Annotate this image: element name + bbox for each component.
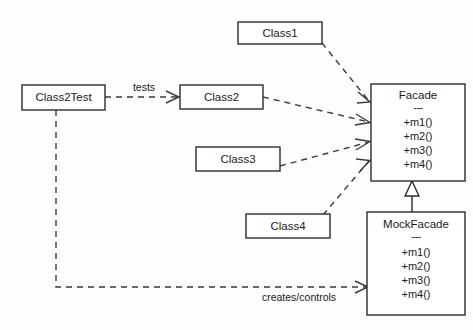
class-box-mockfacade[interactable]: MockFacade --- +m1() +m2() +m3() +m4() [367, 212, 465, 315]
class4-name: Class4 [270, 220, 306, 232]
edge-label-tests: tests [127, 81, 161, 94]
facade-name: Facade [399, 89, 437, 101]
facade-member-3: +m4() [403, 158, 432, 170]
edge-class1-to-facade [322, 43, 370, 103]
class-box-class4[interactable]: Class4 [246, 214, 330, 238]
facade-member-1: +m2() [403, 130, 432, 142]
edge-class4-to-facade [323, 159, 370, 215]
class-box-facade[interactable]: Facade --- +m1() +m2() +m3() +m4() [371, 84, 465, 181]
diagram-canvas: Class1 Class2Test Class2 Class3 Class4 F… [0, 0, 473, 330]
mockfacade-name: MockFacade [383, 218, 449, 230]
mockfacade-separator: --- [411, 230, 421, 242]
class3-name: Class3 [220, 153, 255, 165]
facade-separator: --- [413, 101, 423, 113]
edge-class3-to-facade [280, 139, 370, 166]
facade-member-2: +m3() [403, 144, 432, 156]
class-box-class2test[interactable]: Class2Test [22, 85, 105, 110]
creates-controls-label: creates/controls [262, 291, 336, 303]
mockfacade-member-2: +m3() [401, 274, 430, 286]
class2test-name: Class2Test [35, 91, 92, 103]
edge-label-creates-controls: creates/controls [262, 291, 336, 303]
class-box-class1[interactable]: Class1 [238, 22, 322, 44]
mockfacade-member-1: +m2() [401, 260, 430, 272]
mockfacade-member-0: +m1() [401, 246, 430, 258]
tests-label: tests [133, 81, 155, 93]
class2-name: Class2 [204, 91, 239, 103]
edge-class2-to-facade [263, 97, 370, 125]
uml-class-diagram: Class1 Class2Test Class2 Class3 Class4 F… [0, 0, 473, 330]
facade-member-0: +m1() [403, 116, 432, 128]
class-box-class2[interactable]: Class2 [180, 85, 263, 109]
class1-name: Class1 [262, 27, 297, 39]
mockfacade-member-3: +m4() [401, 288, 430, 300]
class-box-class3[interactable]: Class3 [196, 147, 280, 171]
edge-mockfacade-generalization [405, 181, 419, 213]
edge-class2test-to-mockfacade [56, 110, 368, 293]
